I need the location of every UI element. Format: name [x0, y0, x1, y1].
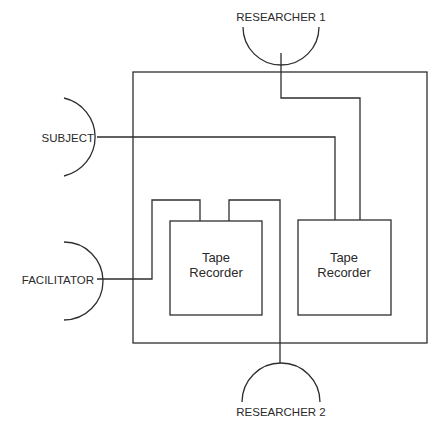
subject-label: SUBJECT [42, 132, 94, 144]
tape-recorder-right-label-line1: Tape [330, 250, 358, 265]
tape-recorder-right: Tape Recorder [298, 220, 391, 315]
tape-recorder-left-label-line2: Recorder [189, 265, 243, 280]
researcher-2-seat-arc [242, 363, 320, 402]
wire-researcher-2-to-left-recorder [229, 200, 280, 363]
wire-facilitator-to-left-recorder [97, 200, 200, 279]
facilitator-label: FACILITATOR [22, 274, 94, 286]
recording-setup-diagram: RESEARCHER 1 SUBJECT FACILITATOR RESEARC… [0, 0, 439, 431]
participant-facilitator: FACILITATOR [22, 242, 103, 320]
participant-subject: SUBJECT [42, 98, 96, 176]
researcher-2-label: RESEARCHER 2 [236, 406, 325, 418]
tape-recorder-left: Tape Recorder [170, 221, 262, 315]
researcher-1-label: RESEARCHER 1 [236, 11, 325, 23]
tape-recorder-left-label-line1: Tape [202, 250, 230, 265]
participant-researcher-2: RESEARCHER 2 [236, 363, 325, 418]
tape-recorder-right-label-line2: Recorder [317, 265, 371, 280]
